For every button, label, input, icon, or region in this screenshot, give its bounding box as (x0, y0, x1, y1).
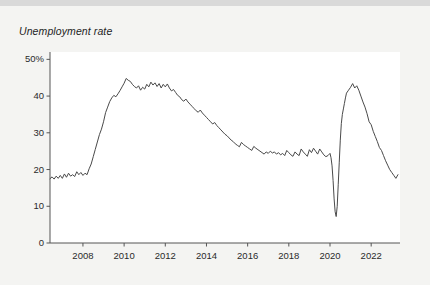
x-tick-label: 2018 (269, 250, 309, 261)
x-tick-label: 2022 (351, 250, 391, 261)
chart-svg (0, 0, 430, 285)
x-tick-label: 2020 (310, 250, 350, 261)
y-tick-label: 0 (8, 237, 44, 248)
x-tick-label: 2008 (63, 250, 103, 261)
y-tick-label: 30 (8, 127, 44, 138)
y-tick-label: 40 (8, 90, 44, 101)
x-tick-label: 2014 (186, 250, 226, 261)
y-tick-label: 10 (8, 200, 44, 211)
y-tick-label: 20 (8, 164, 44, 175)
x-tick-label: 2016 (228, 250, 268, 261)
y-tick-label: 50% (8, 53, 44, 64)
axis-lines (50, 52, 400, 243)
unemployment-rate-line (50, 78, 398, 216)
x-tick-label: 2012 (145, 250, 185, 261)
x-tick-label: 2010 (104, 250, 144, 261)
